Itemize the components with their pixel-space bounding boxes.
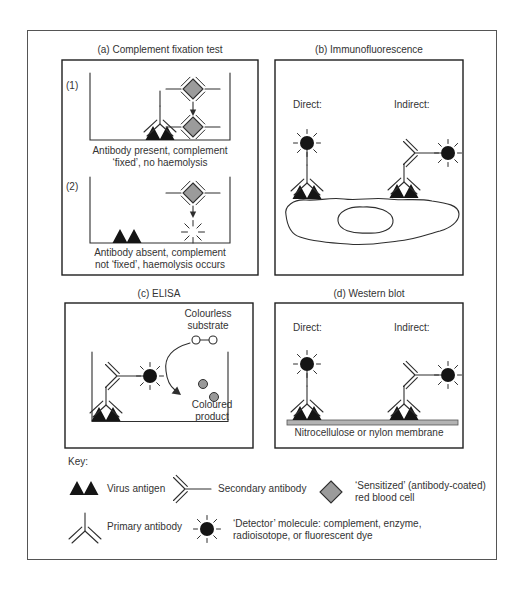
- assembly: [90, 362, 164, 421]
- arrow-down-icon: [190, 102, 196, 116]
- key-title: Key:: [68, 456, 88, 468]
- panel-b-box: [275, 60, 463, 275]
- key-virus-antigen-label: Virus antigen: [107, 483, 165, 495]
- membrane-label: Nitrocellulose or nylon membrane: [275, 427, 463, 439]
- panel-b-title: (b) Immunofluorescence: [275, 44, 463, 56]
- detector-molecule-icon: [435, 140, 462, 167]
- detector-molecule-icon: [137, 363, 164, 390]
- sensitized-rbc-icon: [181, 115, 205, 139]
- direct-assembly: [291, 130, 323, 200]
- primary-antibody-icon: [291, 165, 323, 195]
- direct-label-b: Direct:: [293, 99, 322, 111]
- detector-molecule-icon: [294, 351, 321, 378]
- key-primary-antibody-label: Primary antibody: [107, 521, 182, 533]
- primary-antibody-icon: [90, 387, 122, 417]
- haemolysis-burst-icon: [182, 221, 205, 244]
- indirect-assembly: [388, 361, 462, 420]
- panel-b-art: [286, 130, 462, 245]
- primary-antibody-icon: [388, 386, 420, 416]
- detector-molecule-icon: [435, 362, 462, 389]
- key-detector-molecule-label: ‘Detector’ molecule: complement, enzyme,…: [233, 518, 421, 542]
- direct-label-d: Direct:: [293, 322, 322, 334]
- colourless-substrate-label: Colourless substrate: [163, 308, 253, 332]
- primary-antibody-icon: [144, 91, 176, 136]
- primary-antibody-icon: [388, 164, 420, 194]
- indirect-label-b: Indirect:: [394, 99, 430, 111]
- key-secondary-antibody-label: Secondary antibody: [218, 483, 306, 495]
- panel-d-title: (d) Western blot: [275, 288, 463, 300]
- key-sensitized-rbc-label: ‘Sensitized’ (antibody-coated) red blood…: [355, 480, 486, 504]
- coloured-product-label: Coloured product: [167, 399, 257, 423]
- primary-antibody-icon: [291, 386, 323, 416]
- figure-art: [0, 0, 526, 602]
- sub-test-2-label: (2): [66, 181, 78, 193]
- cell-nucleus: [338, 207, 393, 233]
- cell-outline: [286, 198, 459, 244]
- detector-molecule-icon: [194, 516, 221, 543]
- indirect-assembly: [388, 139, 462, 198]
- sensitized-rbc-icon: [181, 77, 205, 101]
- virus-antigen-icon: [113, 229, 142, 243]
- reaction-arrow-icon: [166, 343, 190, 395]
- panel-c-title: (c) ELISA: [65, 288, 253, 300]
- substrate-molecule-icon: [192, 336, 217, 344]
- figure-page: (a) Complement fixation test (b) Immunof…: [0, 0, 526, 602]
- secondary-antibody-icon: [174, 475, 212, 502]
- virus-antigen-icon: [70, 481, 99, 495]
- complement-not-fixed-caption: Antibody absent, complement not ‘fixed’,…: [62, 247, 258, 271]
- panel-d-art: [287, 351, 462, 426]
- well-2: [90, 177, 230, 243]
- detector-molecule-icon: [294, 130, 321, 157]
- sensitized-rbc-icon: [320, 481, 342, 503]
- panel-a-title: (a) Complement fixation test: [62, 44, 258, 56]
- sub-test-1-label: (1): [66, 80, 78, 92]
- arrow-down-icon: [190, 206, 196, 218]
- sensitized-rbc-icon: [181, 181, 205, 205]
- indirect-label-d: Indirect:: [394, 322, 430, 334]
- direct-assembly: [291, 351, 323, 421]
- membrane-strip: [287, 420, 458, 425]
- primary-antibody-icon: [69, 513, 101, 543]
- complement-fixed-caption: Antibody present, complement ‘fixed’, no…: [62, 145, 258, 169]
